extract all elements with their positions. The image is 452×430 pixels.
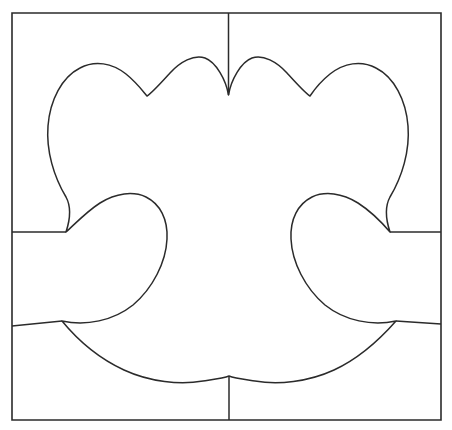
pattern-drawing-canvas [0,0,452,430]
